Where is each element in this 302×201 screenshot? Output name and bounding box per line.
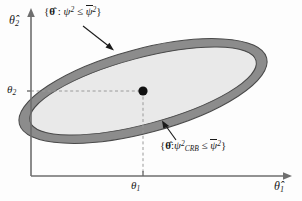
outer-set-psi-bar: ψ <box>86 5 93 17</box>
x-axis-label-subscript: 1 <box>280 185 284 194</box>
inner-set-psi: ψ <box>174 139 181 151</box>
inner-set-close-brace: } <box>221 139 226 151</box>
y-axis-tick-label: θ2 <box>7 84 16 96</box>
y-axis-label: θ̂2 <box>9 14 19 28</box>
x-axis-label: θ̂1 <box>274 180 284 194</box>
outer-set-close-brace: } <box>96 5 101 17</box>
inner-set-psi-subscript: CRB <box>185 144 199 153</box>
x-tick-subscript: 1 <box>136 184 140 193</box>
outer-set-leq: ≤ <box>74 5 86 17</box>
y-axis-label-subscript: 2 <box>15 19 19 28</box>
ellipse-figure: θ̂2 θ2 θ1 θ̂1 {θ̂ : ψ2 ≤ ψ2} {θ̂:ψ2CRB ≤… <box>0 0 302 201</box>
x-axis-arrowhead <box>283 172 292 180</box>
inner-set-label: {θ̂:ψ2CRB ≤ ψ2} <box>160 139 226 152</box>
inner-set-leq: ≤ <box>199 139 211 151</box>
outer-set-label: {θ̂ : ψ2 ≤ ψ2} <box>44 5 102 17</box>
figure-canvas <box>0 0 302 201</box>
true-parameter-point <box>138 86 147 95</box>
x-axis-tick-label: θ1 <box>131 180 140 192</box>
outer-set-colon: : <box>55 5 64 17</box>
y-tick-subscript: 2 <box>12 88 16 97</box>
outer-set-arrow-shaft <box>83 26 111 48</box>
y-axis-arrowhead <box>27 8 35 17</box>
